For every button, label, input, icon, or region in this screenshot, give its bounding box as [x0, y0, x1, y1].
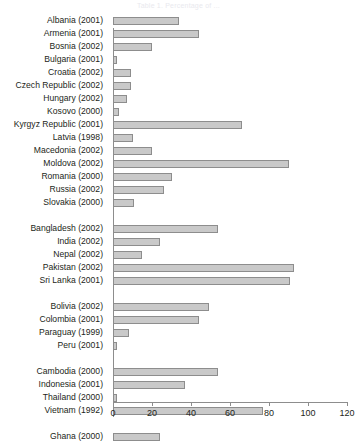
bar-row-label: Slovakia (2000) — [0, 196, 108, 209]
bar — [113, 147, 152, 155]
bar-row-label: Bulgaria (2001) — [0, 53, 108, 66]
bar-row: Moldova (2002) — [0, 157, 357, 170]
x-axis-tick — [152, 402, 153, 406]
bar-row-label: Vietnam (1992) — [0, 404, 108, 417]
bar-row-label: Indonesia (2001) — [0, 378, 108, 391]
bar-row: Indonesia (2001) — [0, 378, 357, 391]
bar — [113, 368, 218, 376]
bar-row: Pakistan (2002) — [0, 261, 357, 274]
bar — [113, 69, 131, 77]
bar-row: Kyrgyz Republic (2001) — [0, 118, 357, 131]
group-separator — [0, 287, 357, 300]
bar-row-label: Ghana (2000) — [0, 430, 108, 443]
x-axis-tick-label: 0 — [110, 408, 115, 418]
bar-row: Colombia (2001) — [0, 313, 357, 326]
bar-row-label: Latvia (1998) — [0, 131, 108, 144]
bar-row-label: Kyrgyz Republic (2001) — [0, 118, 108, 131]
bar — [113, 17, 179, 25]
bar-row: Bolivia (2002) — [0, 300, 357, 313]
bar-row: Paraguay (1999) — [0, 326, 357, 339]
bar-row-label: Czech Republic (2002) — [0, 79, 108, 92]
bar-row-label: Thailand (2000) — [0, 391, 108, 404]
x-axis-tick-label: 40 — [186, 408, 196, 418]
group-separator — [0, 209, 357, 222]
bar-row-label: Romania (2000) — [0, 170, 108, 183]
x-axis-tick — [191, 402, 192, 406]
bar — [113, 394, 117, 402]
chart-title: Table 1. Percentage of ... — [0, 0, 357, 11]
bar-row: Macedonia (2002) — [0, 144, 357, 157]
x-axis-tick-label: 100 — [300, 408, 315, 418]
bar-row: Russia (2002) — [0, 183, 357, 196]
bar-rows: Albania (2001)Armenia (2001)Bosnia (2002… — [0, 14, 357, 443]
bar — [113, 82, 131, 90]
bar-row-label: Pakistan (2002) — [0, 261, 108, 274]
bar-row: Croatia (2002) — [0, 66, 357, 79]
bar — [113, 225, 218, 233]
bar — [113, 56, 117, 64]
bar — [113, 121, 242, 129]
bar-row: Cambodia (2000) — [0, 365, 357, 378]
bar-row: Latvia (1998) — [0, 131, 357, 144]
x-axis-tick — [347, 402, 348, 406]
bar-row: Ghana (2000) — [0, 430, 357, 443]
bar — [113, 277, 290, 285]
bar-row-label: Cambodia (2000) — [0, 365, 108, 378]
bar-row: Bosnia (2002) — [0, 40, 357, 53]
bar-row: Bangladesh (2002) — [0, 222, 357, 235]
x-axis-tick — [113, 402, 114, 406]
bar-row: Czech Republic (2002) — [0, 79, 357, 92]
bar-row-label: Bolivia (2002) — [0, 300, 108, 313]
bar — [113, 108, 119, 116]
bar-row-label: Peru (2001) — [0, 339, 108, 352]
bar-row-label: Moldova (2002) — [0, 157, 108, 170]
bar — [113, 342, 117, 350]
bar-row-label: Sri Lanka (2001) — [0, 274, 108, 287]
bar — [113, 43, 152, 51]
bar — [113, 160, 289, 168]
bar-row-label: Russia (2002) — [0, 183, 108, 196]
bar-row-label: Nepal (2002) — [0, 248, 108, 261]
bar-row-label: Macedonia (2002) — [0, 144, 108, 157]
plot-area: Albania (2001)Armenia (2001)Bosnia (2002… — [0, 14, 357, 402]
bar-row-label: Bangladesh (2002) — [0, 222, 108, 235]
bar-row-label: Albania (2001) — [0, 14, 108, 27]
bar-row-label: India (2002) — [0, 235, 108, 248]
bar-row-label: Croatia (2002) — [0, 66, 108, 79]
bar-row: Slovakia (2000) — [0, 196, 357, 209]
bar-row-label: Colombia (2001) — [0, 313, 108, 326]
x-axis-tick-label: 20 — [147, 408, 157, 418]
bar-row: Kosovo (2000) — [0, 105, 357, 118]
bar-row: Hungary (2002) — [0, 92, 357, 105]
bar-row: Sri Lanka (2001) — [0, 274, 357, 287]
bar-row: Nepal (2002) — [0, 248, 357, 261]
x-axis-tick — [230, 402, 231, 406]
x-axis-tick-label: 60 — [225, 408, 235, 418]
bar — [113, 303, 209, 311]
bar — [113, 186, 164, 194]
bar — [113, 381, 185, 389]
bar — [113, 95, 127, 103]
bar — [113, 329, 129, 337]
group-separator — [0, 352, 357, 365]
bar — [113, 433, 160, 441]
bar-row: Armenia (2001) — [0, 27, 357, 40]
bar-row: Romania (2000) — [0, 170, 357, 183]
bar-row: India (2002) — [0, 235, 357, 248]
bar — [113, 251, 142, 259]
bar — [113, 316, 199, 324]
bar-row-label: Armenia (2001) — [0, 27, 108, 40]
bar-row: Albania (2001) — [0, 14, 357, 27]
bar — [113, 264, 294, 272]
x-axis-tick-label: 120 — [339, 408, 354, 418]
bar — [113, 134, 133, 142]
bar-row-label: Hungary (2002) — [0, 92, 108, 105]
x-axis-tick — [308, 402, 309, 406]
group-separator — [0, 417, 357, 430]
bar — [113, 30, 199, 38]
x-axis-tick-label: 80 — [264, 408, 274, 418]
bar-row-label: Kosovo (2000) — [0, 105, 108, 118]
bar — [113, 199, 134, 207]
bar-row-label: Paraguay (1999) — [0, 326, 108, 339]
